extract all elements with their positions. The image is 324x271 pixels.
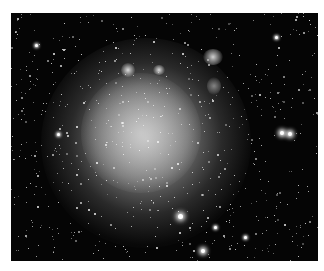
star — [122, 125, 124, 127]
star — [157, 141, 159, 143]
star — [217, 71, 218, 72]
star — [39, 44, 40, 45]
star — [49, 227, 50, 228]
star — [310, 24, 311, 25]
star — [276, 206, 277, 207]
star — [88, 179, 89, 180]
star — [130, 147, 131, 148]
star — [34, 55, 35, 56]
star — [106, 40, 107, 41]
star — [245, 188, 246, 189]
star — [234, 175, 235, 176]
star — [145, 98, 146, 99]
star — [274, 135, 275, 136]
bright-star — [57, 133, 60, 136]
star — [59, 154, 60, 155]
star — [308, 235, 309, 236]
star — [57, 228, 58, 229]
star — [21, 119, 22, 120]
star — [170, 224, 171, 225]
star — [71, 238, 72, 239]
star — [106, 147, 107, 148]
star — [192, 257, 193, 258]
star — [197, 260, 198, 261]
star — [127, 251, 128, 252]
star — [225, 124, 227, 126]
bright-star — [275, 36, 278, 39]
star — [231, 245, 232, 246]
star — [303, 84, 304, 85]
star — [88, 201, 89, 202]
star — [118, 48, 119, 49]
star — [49, 93, 50, 94]
star — [32, 226, 33, 227]
star — [157, 227, 158, 228]
star — [95, 139, 96, 140]
star — [233, 226, 234, 227]
star — [265, 97, 266, 98]
star — [232, 236, 233, 237]
star — [289, 60, 290, 61]
star — [307, 186, 308, 187]
star — [227, 163, 228, 164]
star — [155, 177, 157, 179]
star — [231, 53, 232, 54]
star — [279, 92, 280, 93]
star — [316, 146, 317, 147]
star — [292, 98, 293, 99]
star — [99, 70, 100, 71]
star — [206, 221, 207, 222]
star — [178, 113, 179, 114]
star — [205, 241, 206, 242]
star — [196, 16, 197, 17]
star — [208, 64, 210, 66]
star — [253, 163, 254, 164]
star — [309, 89, 311, 91]
star — [159, 80, 160, 81]
star — [52, 236, 53, 237]
star — [179, 169, 180, 170]
star — [208, 151, 209, 152]
star — [167, 93, 168, 94]
star — [131, 226, 132, 227]
star — [30, 183, 31, 184]
star — [192, 184, 193, 185]
star — [166, 185, 168, 187]
star — [254, 257, 255, 258]
star — [158, 72, 159, 73]
star — [229, 220, 230, 221]
star — [293, 29, 294, 30]
star — [47, 156, 48, 157]
star — [101, 216, 102, 217]
star — [259, 171, 260, 172]
star — [239, 55, 240, 56]
galaxy-photo — [11, 13, 318, 261]
star — [121, 95, 122, 96]
star — [208, 190, 209, 191]
star — [166, 23, 167, 24]
star — [80, 17, 81, 18]
star — [17, 20, 18, 21]
star — [300, 133, 301, 134]
star — [26, 66, 27, 67]
star — [138, 109, 139, 110]
star — [172, 24, 173, 25]
star — [273, 253, 274, 254]
star — [57, 173, 58, 174]
star — [148, 147, 149, 148]
star — [296, 198, 297, 199]
star — [168, 154, 169, 155]
star — [106, 123, 107, 124]
bright-star — [244, 236, 247, 239]
star — [156, 247, 158, 249]
star — [267, 248, 268, 249]
star — [228, 92, 229, 93]
bright-star — [35, 44, 38, 47]
star — [135, 189, 136, 190]
star — [317, 35, 318, 36]
star — [60, 101, 61, 102]
star — [192, 79, 193, 80]
star — [25, 121, 27, 123]
star — [142, 115, 143, 116]
star — [253, 20, 254, 21]
